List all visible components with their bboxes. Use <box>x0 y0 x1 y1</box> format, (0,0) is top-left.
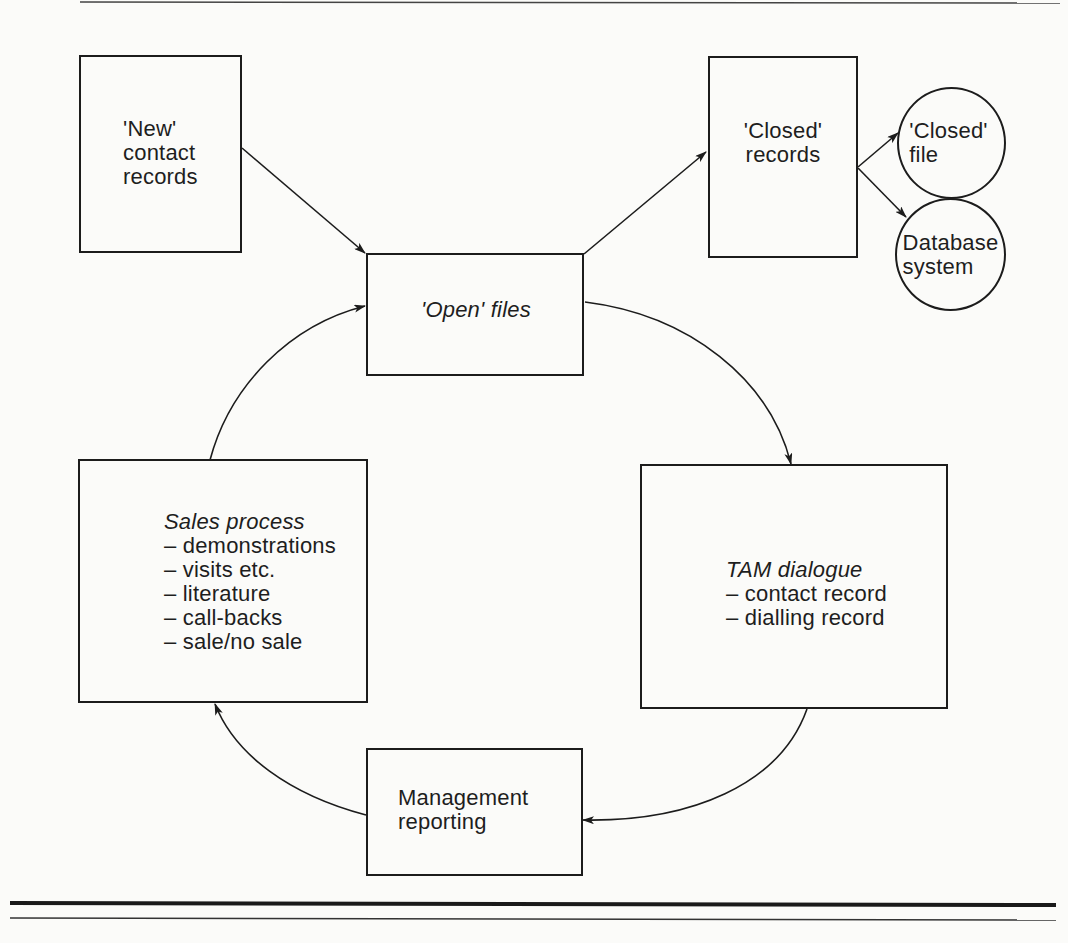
closed-file-label: 'Closed' file <box>909 119 987 167</box>
tam-dialogue-title: TAM dialogue <box>726 558 887 582</box>
sales-process-content: Sales process – demonstrations – visits … <box>164 510 336 654</box>
sales-process-box: Sales process – demonstrations – visits … <box>78 459 368 703</box>
arrow-management-to-sales <box>215 704 366 815</box>
sales-process-item: – demonstrations <box>164 534 336 558</box>
management-reporting-box: Management reporting <box>366 748 583 876</box>
tam-dialogue-item: – dialling record <box>726 606 887 630</box>
arrow-closed-to-database <box>858 168 906 217</box>
new-contact-records-box: 'New' contact records <box>79 55 242 253</box>
arrow-new-to-open <box>242 148 365 253</box>
bottom-rule-thin <box>10 918 1056 920</box>
arrow-tam-to-management <box>583 709 807 820</box>
arrow-sales-to-open <box>210 306 365 460</box>
open-files-label: 'Open' files <box>421 298 531 322</box>
sales-process-item: – visits etc. <box>164 558 336 582</box>
arrow-closed-to-closed-file <box>858 133 898 167</box>
sales-process-item: – call-backs <box>164 606 336 630</box>
arrow-open-to-closed <box>584 152 706 254</box>
tam-dialogue-content: TAM dialogue – contact record – dialling… <box>726 558 887 630</box>
sales-process-item: – sale/no sale <box>164 630 336 654</box>
tam-dialogue-box: TAM dialogue – contact record – dialling… <box>640 464 948 709</box>
closed-file-store: 'Closed' file <box>897 87 1006 199</box>
database-system-store: Database system <box>895 198 1006 311</box>
closed-records-label: 'Closed' records <box>744 119 822 167</box>
tam-dialogue-item: – contact record <box>726 582 887 606</box>
sales-process-item: – literature <box>164 582 336 606</box>
arrow-open-to-tam <box>585 302 791 464</box>
management-reporting-label: Management reporting <box>398 786 528 834</box>
new-contact-records-label: 'New' contact records <box>123 117 198 189</box>
database-system-label: Database system <box>903 231 999 279</box>
bottom-rule-thick <box>10 903 1056 905</box>
top-rule <box>80 2 1060 3</box>
closed-records-box: 'Closed' records <box>708 56 858 258</box>
sales-process-title: Sales process <box>164 510 336 534</box>
open-files-box: 'Open' files <box>366 253 584 376</box>
